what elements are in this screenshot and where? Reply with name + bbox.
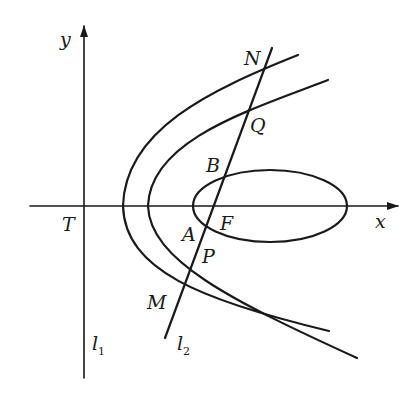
line-l2-label: l2: [177, 332, 190, 358]
y-axis-label: y: [59, 28, 71, 50]
point-P-label: P: [201, 245, 216, 267]
conic-diagram: y x T N Q B F A P M l1 l2: [0, 0, 416, 399]
point-A-label: A: [180, 223, 196, 245]
point-Q-label: Q: [250, 114, 266, 136]
outer-parabola: [123, 55, 329, 331]
point-N-label: N: [243, 47, 262, 69]
point-T-label: T: [62, 213, 76, 235]
line-l1-label: l1: [92, 332, 105, 358]
x-axis-label: x: [375, 210, 386, 232]
point-B-label: B: [205, 154, 220, 176]
point-M-label: M: [146, 291, 167, 313]
point-F-label: F: [219, 212, 234, 234]
